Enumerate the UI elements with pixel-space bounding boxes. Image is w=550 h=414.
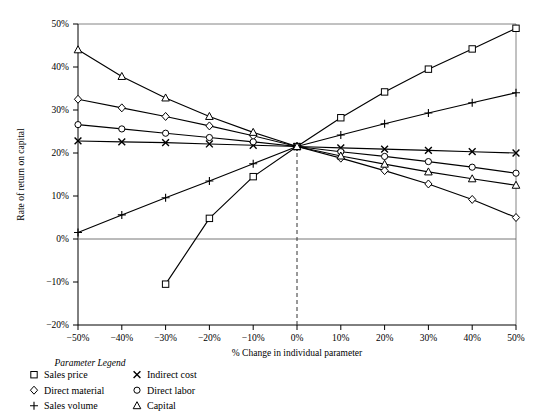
x-tick-label: 0% — [291, 333, 304, 343]
data-point-diamond — [469, 195, 476, 203]
data-point-plus — [162, 194, 170, 202]
data-point-circle — [250, 139, 256, 145]
data-point-circle — [163, 130, 169, 136]
data-point-plus — [74, 229, 82, 237]
y-tick-label: −10% — [46, 277, 69, 287]
data-point-diamond — [30, 386, 37, 394]
data-point-plus — [30, 402, 38, 410]
chart-canvas: 50%40%30%20%10%0%−10%−20%−50%−40%−30%−20… — [0, 0, 550, 414]
data-point-triangle — [74, 46, 82, 53]
data-point-diamond — [74, 95, 81, 103]
data-point-x — [134, 371, 141, 378]
legend-label-indirect-cost: Indirect cost — [147, 369, 197, 380]
data-point-plus — [424, 109, 432, 117]
data-point-circle — [119, 126, 125, 132]
data-point-diamond — [162, 112, 169, 120]
data-point-plus — [118, 211, 126, 219]
data-point-circle — [75, 122, 81, 128]
data-point-plus — [249, 160, 257, 168]
y-tick-label: 30% — [52, 105, 70, 115]
data-point-circle — [469, 164, 475, 170]
x-tick-label: 40% — [463, 333, 481, 343]
data-point-triangle — [133, 402, 141, 409]
data-point-circle — [206, 134, 212, 140]
series-line-direct-material — [78, 99, 516, 217]
data-point-circle — [134, 387, 140, 393]
legend-label-capital: Capital — [147, 400, 176, 411]
data-point-plus — [337, 131, 345, 139]
data-point-triangle — [162, 94, 170, 101]
data-point-square — [338, 115, 344, 121]
sensitivity-chart: 50%40%30%20%10%0%−10%−20%−50%−40%−30%−20… — [0, 0, 550, 414]
data-point-circle — [382, 153, 388, 159]
data-point-square — [381, 89, 387, 95]
y-tick-label: 20% — [52, 148, 70, 158]
data-point-plus — [381, 120, 389, 128]
data-point-square — [469, 46, 475, 52]
legend-label-sales-price: Sales price — [44, 369, 88, 380]
x-tick-label: 10% — [332, 333, 350, 343]
data-point-diamond — [381, 167, 388, 175]
x-axis-title: % Change in individual parameter — [232, 348, 363, 358]
data-point-square — [206, 215, 212, 221]
y-axis-title: Rate of return on capital — [16, 128, 26, 221]
legend-label-sales-volume: Sales volume — [44, 400, 98, 411]
x-tick-label: 30% — [420, 333, 438, 343]
data-point-plus — [205, 177, 213, 185]
data-point-triangle — [118, 72, 126, 79]
x-tick-label: 50% — [507, 333, 525, 343]
legend-title: Parameter Legend — [54, 358, 126, 368]
data-point-square — [513, 25, 519, 31]
data-point-square — [250, 173, 256, 179]
y-tick-label: 50% — [52, 19, 70, 29]
data-point-plus — [468, 99, 476, 107]
data-point-plus — [512, 89, 520, 97]
data-point-diamond — [118, 104, 125, 112]
x-tick-label: −10% — [242, 333, 265, 343]
y-tick-label: 10% — [52, 191, 70, 201]
y-tick-label: 0% — [56, 234, 69, 244]
x-tick-label: −20% — [198, 333, 221, 343]
data-point-square — [31, 372, 37, 378]
x-tick-label: −40% — [110, 333, 133, 343]
x-tick-label: −50% — [67, 333, 90, 343]
data-point-diamond — [512, 214, 519, 222]
data-point-diamond — [425, 180, 432, 188]
legend-label-direct-labor: Direct labor — [147, 385, 196, 396]
data-point-circle — [513, 170, 519, 176]
data-point-circle — [425, 159, 431, 165]
data-point-square — [425, 66, 431, 72]
x-tick-label: 20% — [376, 333, 394, 343]
x-tick-label: −30% — [154, 333, 177, 343]
legend-label-direct-material: Direct material — [44, 385, 104, 396]
y-tick-label: −20% — [46, 320, 69, 330]
y-tick-label: 40% — [52, 62, 70, 72]
data-point-square — [162, 281, 168, 287]
data-point-diamond — [206, 122, 213, 130]
